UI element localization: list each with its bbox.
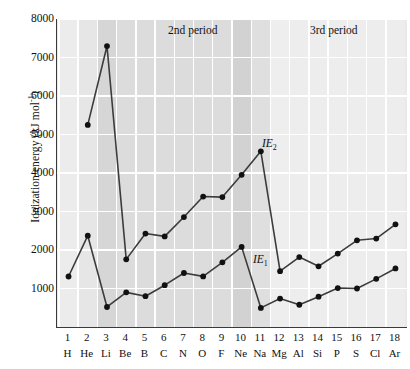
- data-point-ie2-8: [239, 172, 245, 178]
- y-tick-7000: 7000: [8, 52, 54, 64]
- data-point-ie1-8: [219, 259, 225, 265]
- data-point-ie2-12: [316, 263, 322, 269]
- data-point-ie1-16: [373, 276, 379, 282]
- data-point-ie1-14: [335, 285, 341, 291]
- data-point-ie1-17: [393, 266, 399, 272]
- series-label-ie2-text: IE: [262, 137, 273, 149]
- y-axis-tick-labels: 10002000300040005000600070008000: [2, 0, 54, 369]
- data-point-ie2-1: [104, 43, 110, 49]
- data-point-ie1-10: [258, 305, 264, 311]
- data-point-ie1-12: [296, 302, 302, 308]
- series-label-ie2-sub: 2: [273, 143, 277, 152]
- y-tick-6000: 6000: [8, 90, 54, 102]
- y-tick-8000: 8000: [8, 13, 54, 25]
- x-tick-symbol-ar: Ar: [379, 347, 409, 360]
- data-point-ie1-1: [85, 233, 91, 239]
- data-point-ie1-11: [277, 296, 283, 302]
- data-point-ie2-16: [393, 221, 399, 227]
- data-point-ie2-3: [143, 231, 149, 237]
- data-point-ie2-13: [335, 251, 341, 257]
- data-point-ie2-4: [162, 234, 168, 240]
- y-tick-4000: 4000: [8, 167, 54, 179]
- data-point-ie1-0: [66, 274, 72, 280]
- series-line-ie1: [69, 236, 396, 308]
- data-point-ie1-2: [104, 304, 110, 310]
- data-point-ie1-3: [123, 289, 129, 295]
- data-point-ie1-4: [143, 293, 149, 299]
- data-point-ie1-9: [239, 244, 245, 250]
- data-point-ie2-7: [219, 194, 225, 200]
- data-point-ie1-15: [354, 286, 360, 292]
- plot-area: [56, 19, 407, 328]
- series-lines-and-markers: [57, 19, 407, 327]
- series-label-ie2: IE2: [262, 137, 277, 152]
- data-point-ie2-14: [354, 237, 360, 243]
- data-point-ie2-6: [200, 194, 206, 200]
- x-axis-element-symbols: HHeLiBeBCNOFNeNaMgAlSiPSClAr: [56, 347, 406, 362]
- data-point-ie1-7: [200, 274, 206, 280]
- data-point-ie2-15: [373, 236, 379, 242]
- data-point-ie2-2: [123, 256, 129, 262]
- data-point-ie2-10: [277, 268, 283, 274]
- data-point-ie1-5: [162, 282, 168, 288]
- period-3-label: 3rd period: [310, 24, 358, 36]
- y-tick-1000: 1000: [8, 283, 54, 295]
- series-line-ie2: [88, 46, 396, 271]
- series-label-ie1-text: IE: [253, 253, 264, 265]
- data-point-ie1-6: [181, 270, 187, 276]
- data-point-ie1-13: [316, 294, 322, 300]
- data-point-ie2-11: [296, 254, 302, 260]
- data-point-ie2-0: [85, 122, 91, 128]
- x-tick-number-18: 18: [379, 331, 409, 344]
- x-axis-atomic-numbers: 123456789101112131415161718: [56, 331, 406, 346]
- y-tick-5000: 5000: [8, 129, 54, 141]
- y-tick-2000: 2000: [8, 244, 54, 256]
- series-label-ie1: IE1: [253, 253, 268, 268]
- ionization-energy-chart: Ionization energy (kJ mol-1) 10002000300…: [0, 0, 410, 369]
- series-label-ie1-sub: 1: [264, 259, 268, 268]
- period-2-label: 2nd period: [168, 24, 218, 36]
- data-point-ie2-5: [181, 214, 187, 220]
- y-tick-3000: 3000: [8, 206, 54, 218]
